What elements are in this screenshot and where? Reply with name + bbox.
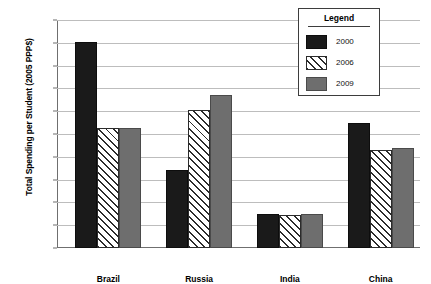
legend-label-2000: 2000 (336, 37, 354, 46)
y-axis-tick-mark (53, 65, 57, 66)
x-axis-label-india: India (280, 274, 300, 284)
bar-russia-2009 (210, 95, 232, 248)
bar-china-2009 (392, 148, 414, 248)
bar-group-brazil (75, 20, 141, 248)
legend-item-2009: 2009 (299, 73, 379, 94)
y-axis-tick-mark (53, 111, 57, 112)
legend-item-2006: 2006 (299, 52, 379, 73)
y-axis-tick-mark (53, 156, 57, 157)
bar-brazil-2009 (119, 128, 141, 248)
bar-brazil-2000 (75, 42, 97, 248)
x-axis-label-brazil: Brazil (97, 274, 120, 284)
y-axis-tick-mark (53, 179, 57, 180)
bar-group-russia (166, 20, 232, 248)
y-axis-title: Total Spending per Student (2005 PPP$) (24, 17, 34, 217)
bar-china-2006 (370, 150, 392, 248)
y-axis-tick-mark (53, 248, 57, 249)
legend-swatch-2000 (306, 35, 327, 49)
legend-divider (308, 26, 370, 27)
bar-india-2000 (257, 214, 279, 248)
bar-india-2009 (301, 214, 323, 248)
x-axis-label-russia: Russia (185, 274, 213, 284)
legend-title: Legend (299, 13, 379, 23)
legend-item-2000: 2000 (299, 31, 379, 52)
y-axis-tick-mark (53, 88, 57, 89)
bar-russia-2000 (166, 170, 188, 248)
y-axis-tick-mark (53, 134, 57, 135)
bar-russia-2006 (188, 110, 210, 248)
x-axis-label-china: China (369, 274, 393, 284)
y-axis-tick-mark (53, 42, 57, 43)
y-axis-tick-mark (53, 225, 57, 226)
bar-brazil-2006 (97, 128, 119, 248)
legend-swatch-2009 (306, 77, 327, 91)
y-axis-tick-mark (53, 202, 57, 203)
bar-china-2000 (348, 123, 370, 248)
y-axis-tick-mark (53, 20, 57, 21)
bar-india-2006 (279, 215, 301, 248)
legend-label-2009: 2009 (336, 79, 354, 88)
legend-swatch-2006 (306, 56, 327, 70)
legend-label-2006: 2006 (336, 58, 354, 67)
legend-box: Legend 200020062009 (298, 8, 380, 96)
